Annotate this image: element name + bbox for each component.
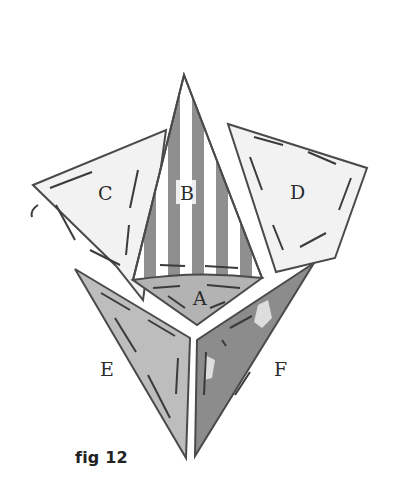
pattern-figure: C D B: [0, 0, 398, 492]
label-b: B: [180, 182, 194, 204]
label-f: F: [274, 358, 287, 380]
label-e: E: [100, 358, 114, 380]
figure-caption: fig 12: [75, 448, 128, 467]
pattern-diagram: C D B: [0, 0, 398, 492]
label-d: D: [290, 181, 305, 203]
label-a: A: [192, 287, 207, 309]
label-c: C: [98, 182, 113, 204]
